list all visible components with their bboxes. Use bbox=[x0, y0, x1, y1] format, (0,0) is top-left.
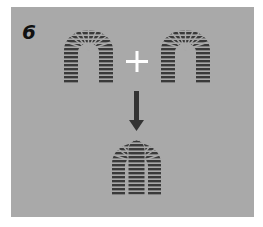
arch-right bbox=[161, 30, 210, 83]
plus-icon bbox=[126, 51, 148, 72]
arch-combined bbox=[112, 140, 161, 196]
arrow-down-icon bbox=[129, 91, 144, 131]
arch-left bbox=[64, 30, 113, 83]
diagram-canvas bbox=[0, 0, 263, 227]
